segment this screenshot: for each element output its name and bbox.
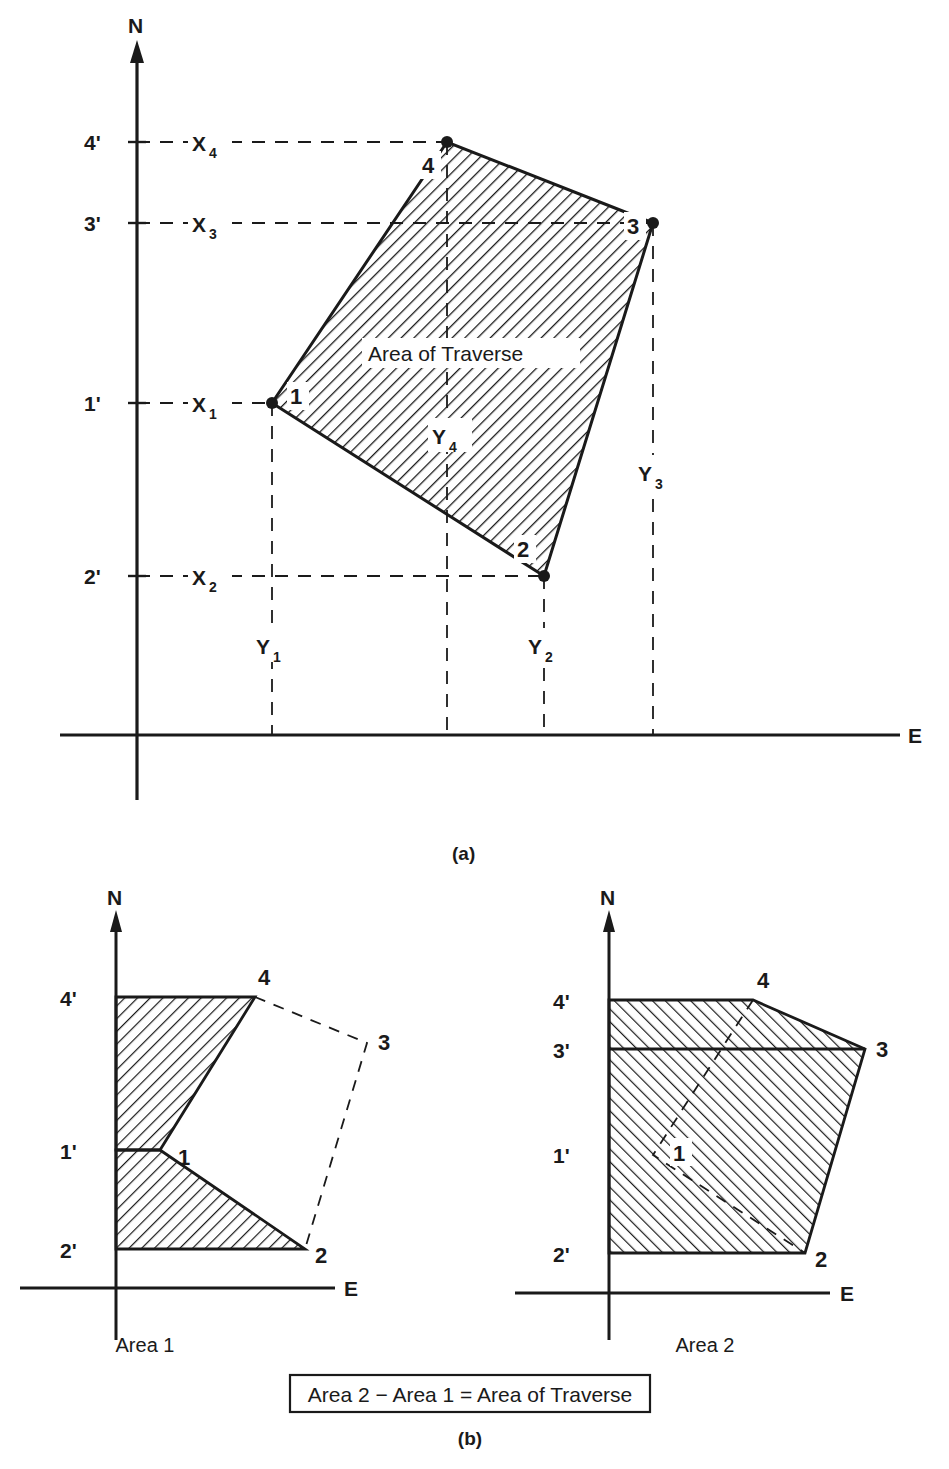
area1-lower-region — [116, 1150, 305, 1249]
area1-tick-2prime: 2' — [60, 1239, 77, 1262]
panel-a-tick-labels: 4' 3' 1' 2' — [80, 128, 120, 590]
x4-subscript: 4 — [209, 145, 217, 161]
area2-tick-3prime: 3' — [553, 1039, 570, 1062]
y2-label: Y — [528, 635, 542, 658]
x1-label: X — [192, 393, 206, 416]
equation-text: Area 2 − Area 1 = Area of Traverse — [308, 1383, 633, 1406]
x1-subscript: 1 — [209, 406, 217, 422]
area1-axis-n-label: N — [107, 886, 122, 909]
tick-label-4prime: 4' — [84, 131, 101, 154]
panel-b-area1-figure: N E 4' 1' 2' 1 2 3 4 Area 1 — [0, 880, 470, 1380]
panel-a-axis-n — [130, 40, 144, 800]
caption-a: (a) — [452, 843, 475, 864]
vertex-dot-3 — [647, 217, 659, 229]
area1-upper-region — [116, 997, 255, 1150]
area1-caption: Area 1 — [116, 1334, 175, 1356]
vertex-dot-1 — [266, 397, 278, 409]
panel-b-area2-figure: N E 4' 3' 1' 2' 1 2 3 4 Area 2 — [480, 880, 949, 1380]
area1-tick-labels: 4' 1' 2' — [60, 987, 77, 1262]
area-of-traverse-label: Area of Traverse — [368, 342, 523, 365]
panel-a-x-labels: X 4 X 3 X 1 X 2 — [188, 126, 232, 595]
area1-point-2: 2 — [315, 1243, 327, 1268]
area2-axis-e-label: E — [840, 1282, 854, 1305]
area2-point-3: 3 — [876, 1037, 888, 1062]
y1-label: Y — [256, 635, 270, 658]
y4-subscript: 4 — [449, 439, 457, 455]
panel-a-axis-n-label: N — [128, 14, 143, 37]
y3-subscript: 3 — [655, 476, 663, 492]
panel-a-axis-e-label: E — [908, 724, 922, 747]
area2-region — [609, 1000, 865, 1253]
area2-tick-1prime: 1' — [553, 1144, 570, 1167]
tick-label-2prime: 2' — [84, 565, 101, 588]
area2-tick-4prime: 4' — [553, 990, 570, 1013]
y4-label: Y — [432, 425, 446, 448]
area2-tick-2prime: 2' — [553, 1243, 570, 1266]
x2-label: X — [192, 566, 206, 589]
caption-b: (b) — [458, 1428, 482, 1449]
area2-point-4: 4 — [757, 968, 770, 993]
y2-subscript: 2 — [545, 649, 553, 665]
x3-label: X — [192, 213, 206, 236]
vertex-dot-2 — [538, 570, 550, 582]
area1-axis-e-label: E — [344, 1277, 358, 1300]
tick-label-1prime: 1' — [84, 392, 101, 415]
x3-subscript: 3 — [209, 226, 217, 242]
equation-and-caption: Area 2 − Area 1 = Area of Traverse (b) — [0, 1360, 949, 1469]
area2-point-2: 2 — [815, 1247, 827, 1272]
area2-point-1: 1 — [673, 1141, 685, 1166]
y3-label: Y — [638, 462, 652, 485]
point-label-1: 1 — [290, 384, 302, 409]
area2-caption: Area 2 — [676, 1334, 735, 1356]
area1-point-3: 3 — [378, 1030, 390, 1055]
point-label-2: 2 — [517, 537, 529, 562]
tick-label-3prime: 3' — [84, 212, 101, 235]
area1-tick-1prime: 1' — [60, 1140, 77, 1163]
y1-subscript: 1 — [273, 649, 281, 665]
area2-tick-labels: 4' 3' 1' 2' — [553, 990, 570, 1266]
point-label-3: 3 — [627, 214, 639, 239]
area1-tick-4prime: 4' — [60, 987, 77, 1010]
vertex-dot-4 — [441, 136, 453, 148]
point-label-4: 4 — [422, 153, 435, 178]
area1-point-4: 4 — [258, 965, 271, 990]
area1-point-1: 1 — [178, 1145, 190, 1170]
x2-subscript: 2 — [209, 579, 217, 595]
panel-a-region-label: Area of Traverse — [362, 338, 580, 368]
panel-a-figure: N E 4' 3' 1' — [0, 0, 949, 880]
area2-axis-n-label: N — [600, 886, 615, 909]
x4-label: X — [192, 132, 206, 155]
area1-dashed-traverse-edges — [255, 997, 367, 1249]
